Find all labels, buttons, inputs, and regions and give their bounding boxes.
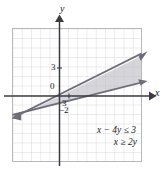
x-axis-label: x [155,88,159,98]
tick-label-y-3: 3 [51,63,56,72]
y-axis-label: y [60,4,64,14]
inequality-system-annotation: x − 4y ≤ 3 x ≥ 2y [72,124,138,148]
tick-label-origin: 0 [50,82,55,91]
y-axis-arrowhead [55,15,64,23]
tick-label-y-negative-2: −2 [59,106,69,115]
inequality-first: x − 4y ≤ 3 [72,124,138,136]
inequality-second: x ≥ 2y [72,136,138,148]
inequality-graph-figure: y x 3 0 3 −2 x − 4y ≤ 3 x ≥ 2y [0,0,163,170]
